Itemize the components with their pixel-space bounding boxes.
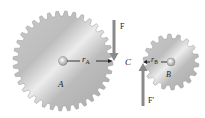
- gear-a-label: A: [57, 79, 64, 89]
- gear-diagram: rA rB F F' C A B: [0, 0, 205, 118]
- force-f-prime-label: F': [148, 96, 154, 105]
- gear-b-label: B: [166, 70, 171, 79]
- force-f-prime-arrow: [139, 63, 148, 106]
- contact-point-label: C: [125, 57, 132, 67]
- gear-b-hub: [167, 58, 175, 66]
- force-f-label: F: [120, 22, 125, 31]
- force-f-arrow: [110, 20, 119, 61]
- gear-a-hub: [59, 57, 68, 66]
